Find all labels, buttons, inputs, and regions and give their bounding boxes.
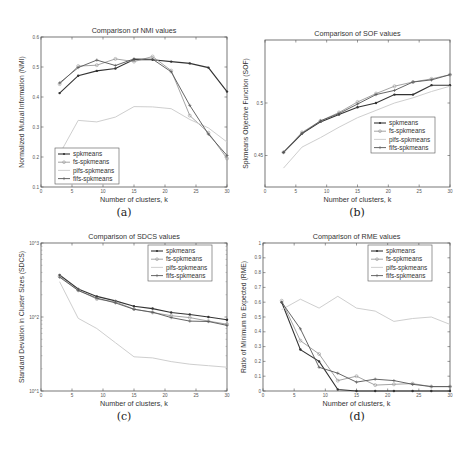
x-tick-label: 5: [71, 189, 74, 194]
marker-dot: [189, 313, 191, 315]
marker-dot: [226, 90, 228, 92]
series-line-spkmeans: [282, 302, 450, 391]
y-tick-label: 0.6: [255, 300, 262, 305]
series-line-pifs-spkmeans: [282, 296, 450, 324]
y-tick-label: 0.3: [33, 125, 40, 130]
y-tick-label: 0.7: [255, 285, 262, 290]
y-tick-label: 10^1: [29, 389, 39, 394]
y-tick-label: 10^3: [29, 241, 39, 246]
legend-label: pifs-spkmeans: [73, 167, 114, 175]
marker-dot: [449, 390, 451, 392]
marker-dot: [133, 305, 135, 307]
legend-label: pifs-spkmeans: [166, 264, 207, 272]
caption-d: (d): [337, 410, 377, 423]
legend-label: fs-spkmeans: [389, 127, 425, 135]
legend: spkmeansfs-spkmeanspifs-spkmeansfifs-spk…: [371, 117, 435, 153]
marker-dot: [151, 307, 153, 309]
x-tick-label: 15: [131, 189, 137, 194]
x-tick-label: 30: [447, 189, 453, 194]
legend-label: fifs-spkmeans: [386, 272, 425, 280]
marker-dot: [355, 390, 357, 392]
y-tick-label: 0.1: [255, 374, 262, 379]
x-tick-label: 0: [40, 189, 43, 194]
y-tick-label: 0.4: [33, 95, 40, 100]
x-tick-label: 10: [100, 189, 106, 194]
y-tick-label: 0.5: [33, 65, 40, 70]
series-line-fs-spkmeans: [60, 57, 227, 159]
marker-dot: [430, 390, 432, 392]
chart-title: Comparison of RME values: [313, 232, 401, 241]
legend-marker: [156, 250, 158, 252]
caption-c: (c): [104, 410, 144, 423]
x-tick-label: 30: [447, 393, 453, 398]
series-line-fifs-spkmeans: [282, 302, 450, 386]
y-axis-label: Standard Deviation in Cluster Sizes (SDC…: [18, 251, 26, 383]
chart-title: Comparison of SOF values: [314, 29, 401, 38]
series-line-fs-spkmeans: [282, 301, 450, 387]
marker-dot: [226, 318, 228, 320]
legend: spkmeansfs-spkmeanspifs-spkmeansfifs-spk…: [148, 245, 212, 281]
marker-dot: [430, 84, 432, 86]
marker-dot: [411, 390, 413, 392]
marker-dot: [189, 62, 191, 64]
x-tick-label: 25: [416, 393, 422, 398]
legend-label: fs-spkmeans: [73, 158, 109, 166]
x-axis-label: Number of clusters, k: [324, 195, 392, 204]
chart-a: Comparison of NMI valuesNumber of cluste…: [18, 26, 230, 204]
chart-b: Comparison of SOF valuesNumber of cluste…: [242, 29, 453, 204]
series-line-pifs-spkmeans: [60, 107, 227, 154]
y-tick-label: 0.8: [255, 270, 262, 275]
legend-label: fifs-spkmeans: [389, 144, 428, 152]
x-tick-label: 5: [293, 393, 296, 398]
chart-title: Comparison of SDCS values: [88, 232, 180, 241]
figure-canvas: Comparison of NMI valuesNumber of cluste…: [0, 0, 476, 450]
x-axis-label: Number of clusters, k: [323, 399, 391, 408]
y-tick-label: 1: [258, 241, 261, 246]
x-tick-label: 30: [224, 189, 230, 194]
y-tick-label: 10^2: [29, 315, 39, 320]
chart-title: Comparison of NMI values: [92, 26, 177, 35]
x-tick-label: 15: [131, 393, 137, 398]
y-tick-label: 0.2: [33, 155, 40, 160]
x-tick-label: 10: [100, 393, 106, 398]
y-axis-label: Spkmeans Objective Function (SOF): [242, 58, 250, 169]
y-tick-label: 0.4: [255, 329, 262, 334]
marker-dot: [374, 390, 376, 392]
x-tick-label: 20: [162, 189, 168, 194]
legend: spkmeansfs-spkmeanspifs-spkmeansfifs-spk…: [55, 148, 119, 184]
marker-dot: [393, 390, 395, 392]
x-tick-label: 20: [162, 393, 168, 398]
y-tick-label: 0.3: [255, 344, 262, 349]
x-tick-label: 25: [193, 189, 199, 194]
marker-dot: [375, 102, 377, 104]
marker-dot: [170, 60, 172, 62]
series-line-spkmeans: [60, 275, 227, 320]
figure: Comparison of NMI valuesNumber of cluste…: [0, 0, 476, 450]
marker-dot: [170, 311, 172, 313]
x-tick-label: 0: [262, 393, 265, 398]
x-tick-label: 25: [417, 189, 423, 194]
y-tick-label: 0.2: [255, 359, 262, 364]
y-tick-label: 0.6: [33, 35, 40, 40]
marker-dot: [299, 348, 301, 350]
y-tick-label: 0.9: [255, 255, 262, 260]
series-line-pifs-spkmeans: [60, 282, 227, 368]
y-tick-label: 0.5: [255, 315, 262, 320]
marker-dot: [207, 66, 209, 68]
x-tick-label: 25: [193, 393, 199, 398]
y-tick-label: 0: [258, 389, 261, 394]
marker-dot: [58, 92, 60, 94]
series-line-fs-spkmeans: [60, 276, 227, 324]
x-axis-label: Number of clusters, k: [100, 195, 168, 204]
marker-dot: [318, 360, 320, 362]
legend-label: pifs-spkmeans: [386, 264, 427, 272]
legend-marker: [63, 153, 65, 155]
caption-a: (a): [104, 206, 144, 219]
x-tick-label: 30: [224, 393, 230, 398]
legend-marker: [376, 250, 378, 252]
legend-label: spkmeans: [389, 119, 418, 127]
y-axis-label: Ratio of Minimum to Expected (RME): [240, 261, 248, 373]
x-tick-label: 10: [324, 189, 330, 194]
chart-c: Comparison of SDCS valuesNumber of clust…: [18, 232, 230, 408]
marker-dot: [356, 106, 358, 108]
